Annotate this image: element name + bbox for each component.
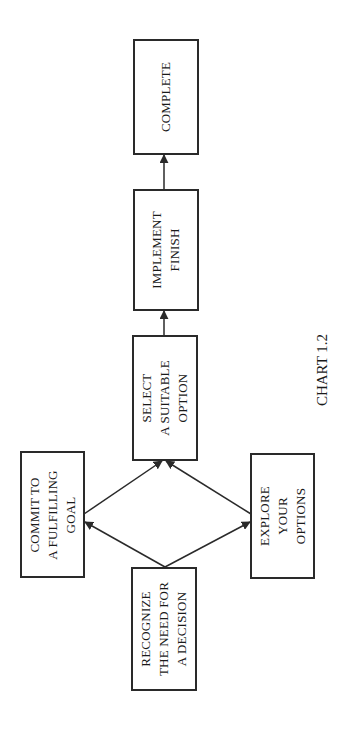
edge-explore-select <box>166 461 251 514</box>
edge-recognize-commit <box>85 522 165 567</box>
node-complete: COMPLETE <box>133 39 199 155</box>
edge-recognize-explore <box>165 522 250 567</box>
node-complete-label: COMPLETE <box>157 62 175 132</box>
node-commit-fulfilling-goal: COMMIT TO A FULFILLING GOAL <box>20 451 85 578</box>
chart-caption-text: CHART 1.2 <box>314 334 331 406</box>
node-recognize-need-label: RECOGNIZE THE NEED FOR A DECISION <box>137 582 191 676</box>
edge-commit-select <box>84 461 162 514</box>
node-explore-options-label: EXPLORE YOUR OPTIONS <box>256 486 310 546</box>
node-commit-fulfilling-goal-label: COMMIT TO A FULFILLING GOAL <box>26 470 80 559</box>
node-select-suitable-option: SELECT A SUITABLE OPTION <box>132 335 198 461</box>
node-implement-finish-label: IMPLEMENT FINISH <box>148 211 184 289</box>
node-implement-finish: IMPLEMENT FINISH <box>133 189 199 311</box>
node-recognize-need: RECOGNIZE THE NEED FOR A DECISION <box>131 567 197 691</box>
node-select-suitable-option-label: SELECT A SUITABLE OPTION <box>138 360 192 436</box>
node-explore-options: EXPLORE YOUR OPTIONS <box>250 453 315 579</box>
flowchart-canvas: COMPLETE IMPLEMENT FINISH SELECT A SUITA… <box>0 0 351 741</box>
chart-caption: CHART 1.2 <box>305 315 339 425</box>
